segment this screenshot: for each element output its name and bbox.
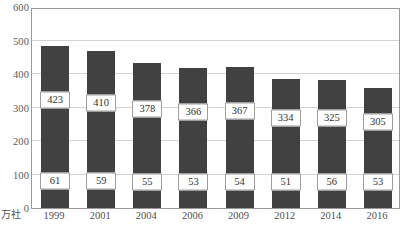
bar-value-label-lower: 56 xyxy=(317,173,347,190)
y-axis-tick-label: 500 xyxy=(3,37,29,47)
bar-value-label-lower: 61 xyxy=(40,172,70,189)
y-axis-tick-label: 600 xyxy=(3,3,29,13)
bar-value-label-lower: 54 xyxy=(225,173,255,190)
bar-segment-upper[interactable] xyxy=(226,67,254,190)
y-axis-tick-label: 200 xyxy=(3,137,29,147)
bar-value-label-lower: 59 xyxy=(86,173,116,190)
bar-group: 42361 xyxy=(32,9,78,208)
bar-value-label-upper: 367 xyxy=(225,103,255,120)
bar-segment-lower[interactable] xyxy=(318,189,346,208)
x-axis-tick-label: 2012 xyxy=(274,210,295,222)
bar-group: 41059 xyxy=(78,9,124,208)
bar-value-label-lower: 53 xyxy=(363,174,393,191)
x-axis-tick-label: 1999 xyxy=(44,210,65,222)
bar-segment-upper[interactable] xyxy=(87,51,115,188)
bar-value-label-lower: 55 xyxy=(132,173,162,190)
y-axis-tick-label: 100 xyxy=(3,171,29,181)
x-axis-tick-label: 2009 xyxy=(228,210,249,222)
bar-group: 30553 xyxy=(355,9,401,208)
bar-group: 33451 xyxy=(263,9,309,208)
x-axis-tick-label: 2016 xyxy=(366,210,387,222)
bar-segment-lower[interactable] xyxy=(364,190,392,208)
y-axis-tick-label: 400 xyxy=(3,70,29,80)
x-axis-tick-label: 2014 xyxy=(320,210,341,222)
y-axis: 0100200300400500600 xyxy=(0,0,29,235)
bar-segment-upper[interactable] xyxy=(133,63,161,190)
bar-group: 36754 xyxy=(217,9,263,208)
plot-area: 4236141059378553665336754334513255630553 xyxy=(31,8,400,209)
x-axis: 19992001200420062009201220142016 xyxy=(31,210,400,224)
stacked-bar-chart: 0100200300400500600 万社 42361410593785536… xyxy=(0,0,413,235)
x-axis-tick-label: 2004 xyxy=(136,210,157,222)
bar-value-label-upper: 334 xyxy=(271,109,301,126)
bar-group: 36653 xyxy=(170,9,216,208)
bar-segment-lower[interactable] xyxy=(272,191,300,208)
bar-value-label-upper: 366 xyxy=(178,103,208,120)
y-axis-unit-label: 万社 xyxy=(1,209,21,220)
bar-value-label-lower: 51 xyxy=(271,174,301,191)
bar-segment-upper[interactable] xyxy=(179,68,207,191)
y-axis-tick-label: 300 xyxy=(3,104,29,114)
bar-segment-lower[interactable] xyxy=(179,190,207,208)
bar-group: 37855 xyxy=(124,9,170,208)
bar-segment-lower[interactable] xyxy=(41,188,69,208)
bar-segment-lower[interactable] xyxy=(226,190,254,208)
x-axis-tick-label: 2006 xyxy=(182,210,203,222)
bar-value-label-upper: 410 xyxy=(86,94,116,111)
x-axis-tick-label: 2001 xyxy=(90,210,111,222)
bar-segment-lower[interactable] xyxy=(133,190,161,208)
bar-segment-lower[interactable] xyxy=(87,188,115,208)
bar-value-label-upper: 378 xyxy=(132,101,162,118)
bar-group: 32556 xyxy=(309,9,355,208)
bar-segment-upper[interactable] xyxy=(41,46,69,188)
bar-value-label-upper: 423 xyxy=(40,91,70,108)
bar-series: 4236141059378553665336754334513255630553 xyxy=(32,9,399,208)
bar-value-label-upper: 325 xyxy=(317,109,347,126)
bar-value-label-upper: 305 xyxy=(363,114,393,131)
bar-value-label-lower: 53 xyxy=(178,174,208,191)
